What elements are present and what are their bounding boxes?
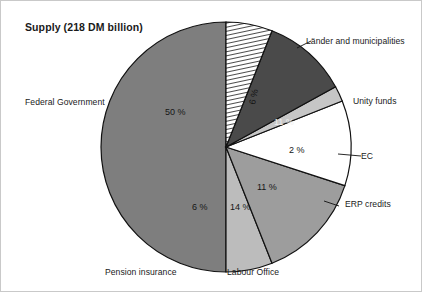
pie-value-federal-government: 50 % — [165, 107, 186, 117]
pie-chart-figure: Supply (218 DM billion) 50 % 6 % 11 % 2 … — [0, 0, 422, 292]
callout-federal-government: Federal Government — [25, 97, 105, 107]
pie-value-pension-insurance: 6 % — [192, 202, 208, 212]
pie-value-unity-funds: 11 % — [274, 117, 294, 127]
callout-unity-funds: Unity funds — [353, 96, 397, 106]
pie-value-erp-credits: 11 % — [257, 182, 277, 192]
pie-value-ec: 2 % — [289, 145, 305, 155]
callout-pension-insurance: Pension insurance — [105, 267, 177, 277]
pie-slice-federal-government[interactable] — [101, 22, 226, 272]
callout-ec: EC — [361, 151, 373, 161]
callout-labour-office: Labour Office — [227, 267, 279, 277]
callout-lander-and-municipalities: Länder and municipalities — [306, 36, 405, 46]
callout-erp-credits: ERP credits — [345, 199, 391, 209]
pie-value-labour-office: 14 % — [230, 202, 251, 212]
